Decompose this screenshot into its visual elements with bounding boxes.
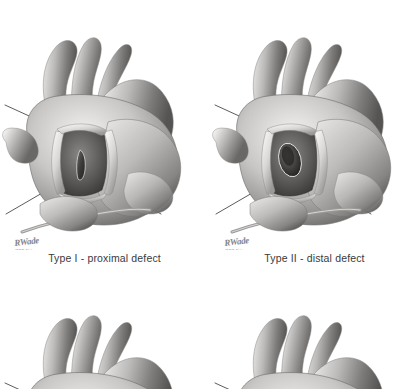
caption-type-2: Type II - distal defect	[210, 252, 419, 265]
panel-type-3	[0, 296, 209, 389]
figure-root: RWade 2004©	[0, 0, 419, 389]
heart-illustration-type-3	[0, 296, 209, 389]
panel-type-2: RWade 2004©	[210, 18, 419, 250]
heart-svg-type-3	[0, 296, 209, 389]
caption-type-1: Type I - proximal defect	[0, 252, 209, 265]
heart-svg-type-2	[210, 18, 419, 250]
panel-type-4	[210, 296, 419, 389]
heart-svg-type-1	[0, 18, 209, 250]
heart-illustration-type-1	[0, 18, 209, 250]
heart-illustration-type-4	[210, 296, 419, 389]
panel-type-1: RWade 2004©	[0, 18, 209, 250]
heart-illustration-type-2	[210, 18, 419, 250]
heart-svg-type-4	[210, 296, 419, 389]
